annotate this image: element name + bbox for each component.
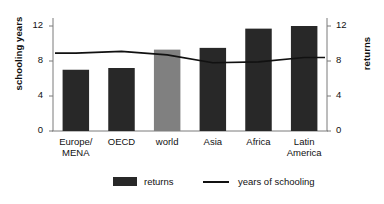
x-category-label-oecd: OECD: [99, 136, 145, 147]
x-category-label-latin-america: Latin America: [281, 136, 327, 158]
y-tick-label-left-4: 4: [23, 89, 43, 100]
y-axis-label-right: returns: [361, 6, 372, 102]
axes-group: [49, 18, 331, 131]
y-tick-label-left-12: 12: [23, 19, 43, 30]
legend-label-returns: returns: [144, 176, 174, 187]
y-tick-label-left-0: 0: [23, 124, 43, 135]
x-category-label-world: world: [144, 136, 190, 147]
legend-bar-swatch-icon: [113, 177, 137, 186]
schooling-line: [55, 51, 325, 62]
chart-figure: schooling years returns 0044881212 Europ…: [0, 0, 384, 204]
legend-line-swatch-icon: [203, 181, 229, 183]
bar-latin-america: [291, 26, 317, 131]
legend-label-years-of-schooling: years of schooling: [238, 176, 315, 187]
bar-europe--mena: [63, 70, 89, 131]
bar-africa: [245, 29, 271, 131]
y-tick-label-right-8: 8: [336, 54, 356, 65]
y-tick-label-left-8: 8: [23, 54, 43, 65]
y-tick-label-right-4: 4: [336, 89, 356, 100]
bars-group: [63, 26, 318, 131]
y-tick-label-right-0: 0: [336, 124, 356, 135]
x-category-label-asia: Asia: [190, 136, 236, 147]
bar-oecd: [108, 68, 134, 131]
schooling-line-group: [55, 51, 325, 62]
y-tick-label-right-12: 12: [336, 19, 356, 30]
bar-world: [154, 50, 180, 131]
plot-area: [0, 0, 384, 204]
x-category-label-africa: Africa: [236, 136, 282, 147]
x-category-label-europe--mena: Europe/ MENA: [53, 136, 99, 158]
y-axis-label-left: schooling years: [13, 6, 24, 102]
